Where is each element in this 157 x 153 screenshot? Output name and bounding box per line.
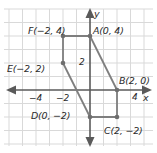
x-axis-name: x <box>143 93 149 103</box>
x-tick-label-minus4: −4 <box>29 94 42 103</box>
point-label-A: A(0, 4) <box>93 26 124 36</box>
vertex-A <box>88 34 93 39</box>
point-label-C: C(2, −2) <box>104 126 143 136</box>
vertex-B <box>115 88 120 93</box>
y-tick-label-2: 2 <box>79 58 85 67</box>
vertex-C <box>115 115 120 120</box>
y-axis-name: y <box>94 9 100 19</box>
vertex-E <box>61 61 66 66</box>
vertex-D <box>88 115 93 120</box>
coordinate-plane-figure: F(−2, 4) A(0, 4) E(−2, 2) B(2, 0) D(0, −… <box>0 0 157 153</box>
x-tick-label-minus2: −2 <box>56 94 69 103</box>
x-tick-label-4: 4 <box>132 93 138 102</box>
point-label-E: E(−2, 2) <box>7 64 45 74</box>
point-label-D: D(0, −2) <box>31 111 70 121</box>
point-label-B: B(2, 0) <box>119 76 150 86</box>
point-label-F: F(−2, 4) <box>28 26 65 36</box>
